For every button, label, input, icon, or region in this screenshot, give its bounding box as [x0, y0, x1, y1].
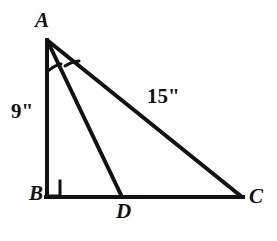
vertex-label-d: D	[116, 201, 131, 222]
vertex-label-c: C	[249, 186, 263, 207]
vertex-label-a: A	[35, 10, 49, 31]
geometry-figure: A B C D 9" 15"	[0, 0, 277, 241]
measure-label-leg-ab: 9"	[11, 101, 33, 122]
measure-label-hypotenuse-ac: 15"	[147, 86, 180, 107]
segment-ac	[47, 40, 242, 197]
vertex-label-b: B	[29, 183, 43, 204]
